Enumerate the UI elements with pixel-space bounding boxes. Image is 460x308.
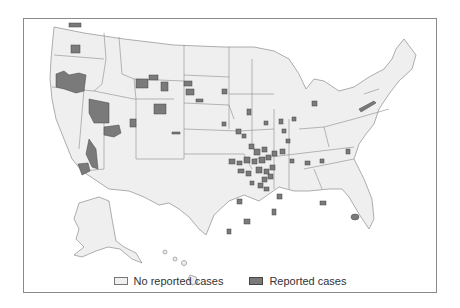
legend-swatch-no-cases <box>114 277 128 285</box>
legend-label-reported-cases: Reported cases <box>269 275 346 287</box>
us-map <box>24 19 437 293</box>
legend-swatch-reported-cases <box>249 277 263 285</box>
map-legend: No reported cases Reported cases <box>24 272 436 290</box>
map-frame: No reported cases Reported cases <box>23 18 437 293</box>
legend-item-no-cases: No reported cases <box>114 275 224 287</box>
legend-item-reported-cases: Reported cases <box>249 275 346 287</box>
legend-label-no-cases: No reported cases <box>134 275 224 287</box>
